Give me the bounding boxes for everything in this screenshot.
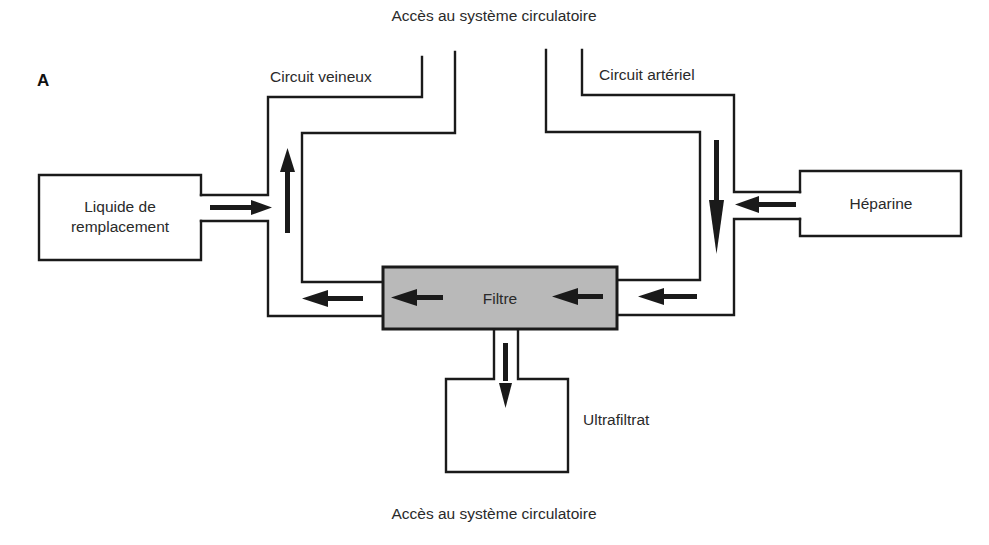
hemofiltration-diagram: A Accès au système circulatoire Circuit … — [0, 0, 989, 545]
arrow-right-icon — [210, 200, 272, 215]
heparin-box: Héparine — [800, 171, 961, 236]
replacement-fluid-label-line1: Liquide de — [84, 198, 156, 215]
arrow-down-icon — [709, 140, 724, 254]
top-access-label: Accès au système circulatoire — [391, 7, 596, 24]
arrow-down-icon — [499, 343, 512, 408]
bottom-access-label: Accès au système circulatoire — [391, 505, 596, 522]
replacement-fluid-label-line2: remplacement — [71, 218, 170, 235]
venous-circuit-label: Circuit veineux — [270, 68, 372, 85]
arrow-left-icon — [638, 288, 697, 305]
heparin-label: Héparine — [850, 195, 913, 212]
arrow-up-icon — [280, 148, 295, 233]
arrow-left-icon — [735, 196, 796, 213]
arrow-left-icon — [302, 290, 363, 307]
filter-label: Filtre — [483, 290, 517, 307]
panel-label: A — [37, 71, 49, 90]
arterial-circuit-label: Circuit artériel — [599, 66, 695, 83]
ultrafiltrate-label: Ultrafiltrat — [583, 411, 650, 428]
replacement-fluid-box: Liquide de remplacement — [39, 175, 201, 260]
